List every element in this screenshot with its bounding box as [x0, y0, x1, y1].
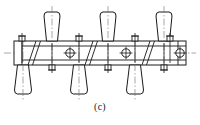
figure-caption: (c): [0, 101, 200, 112]
figure-container: (c): [0, 0, 200, 125]
beam-outline: [14, 41, 186, 65]
